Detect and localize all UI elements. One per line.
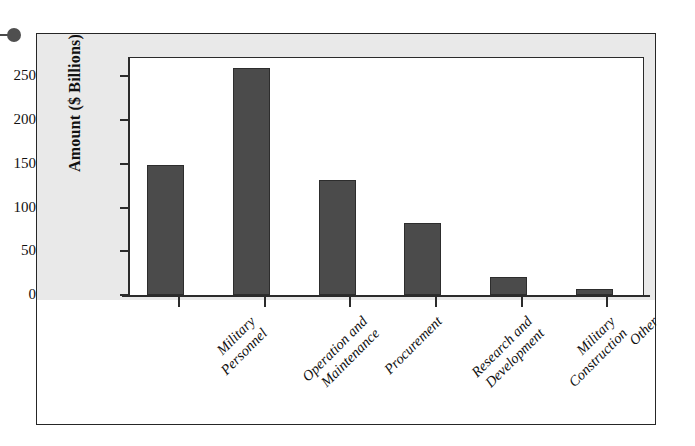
y-tick-label-100: 100 [0, 200, 36, 215]
x-tick-5 [606, 296, 608, 307]
y-tick-250 [120, 75, 129, 77]
bar-5 [576, 289, 613, 295]
y-tick-label-0: 0 [0, 287, 36, 302]
page-canvas: Amount ($ Billions) 050100150200250 Mili… [0, 0, 695, 446]
y-tick-label-50: 50 [0, 243, 36, 258]
x-axis-label-0: MilitaryPersonnel [205, 313, 271, 379]
y-axis-title: Amount ($ Billions) [66, 3, 84, 203]
bar-3 [404, 223, 441, 295]
y-tick-150 [120, 163, 129, 165]
x-axis-label-4: MilitaryConstruction [553, 313, 631, 391]
y-axis-line [128, 57, 130, 297]
bullet-dot-icon [7, 28, 21, 42]
x-axis-label-5: Other [626, 313, 662, 349]
y-tick-label-150: 150 [0, 156, 36, 171]
y-tick-50 [120, 250, 129, 252]
bar-1 [233, 68, 270, 296]
x-axis-label-2: Procurement [381, 313, 446, 378]
y-tick-100 [120, 207, 129, 209]
y-tick-label-200: 200 [0, 112, 36, 127]
y-tick-label-250: 250 [0, 68, 36, 83]
x-tick-2 [349, 296, 351, 307]
x-tick-0 [178, 296, 180, 307]
x-axis-label-line1: Other [626, 313, 661, 348]
x-tick-1 [264, 296, 266, 307]
x-tick-3 [435, 296, 437, 307]
x-tick-4 [521, 296, 523, 307]
plot-area [128, 57, 644, 295]
bullet-marker [0, 28, 26, 42]
bar-0 [147, 165, 184, 295]
bar-4 [490, 277, 527, 295]
bar-2 [319, 180, 356, 296]
x-axis-label-3: Research andDevelopment [468, 313, 548, 393]
x-axis-line [122, 295, 650, 297]
y-tick-0 [120, 294, 129, 296]
chart-figure: Amount ($ Billions) 050100150200250 Mili… [36, 33, 656, 425]
x-axis-label-line1: Procurement [381, 313, 445, 377]
x-axis-label-1: Operation andMaintenance [298, 313, 382, 397]
y-tick-200 [120, 119, 129, 121]
